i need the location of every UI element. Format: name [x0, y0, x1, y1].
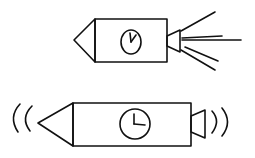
- sound-waves-left-icon: [13, 104, 32, 132]
- clock-icon: [121, 30, 141, 54]
- nose-cone: [74, 19, 95, 62]
- rocket-device: [74, 12, 241, 70]
- speaker-nozzle: [191, 110, 205, 138]
- clock-icon: [120, 109, 150, 139]
- jet-rays-icon: [181, 12, 241, 70]
- nose-cone: [38, 103, 73, 146]
- sound-waves-right-icon: [212, 108, 228, 136]
- sound-device: [13, 103, 227, 146]
- nozzle: [167, 30, 180, 52]
- diagram-canvas: [0, 0, 255, 158]
